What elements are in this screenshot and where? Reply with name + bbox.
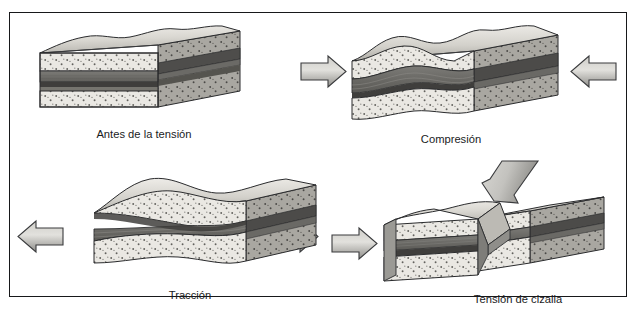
tension-arrow-left: [18, 221, 63, 252]
stress-types-figure: Antes de la tensión: [0, 0, 639, 310]
caption-before-stress: Antes de la tensión: [96, 128, 191, 140]
shear-arrow-left: [332, 228, 377, 259]
shear-arrow-diagonal: [482, 161, 538, 203]
caption-shear-stress: Tensión de cizalla: [474, 293, 563, 305]
compression-arrow-right: [571, 56, 616, 87]
panel-tension: Tracción: [18, 178, 318, 301]
diagram-canvas: Antes de la tensión: [10, 13, 624, 294]
panel-before-stress: Antes de la tensión: [40, 26, 240, 140]
compression-arrow-left: [301, 56, 346, 87]
block-before-stress: [40, 26, 240, 107]
figure-border: Antes de la tensión: [9, 12, 627, 297]
panel-shear-stress: Tensión de cizalla: [332, 161, 604, 305]
block-tension: [94, 178, 316, 263]
caption-tension: Tracción: [169, 289, 211, 301]
panel-compression: Compresión: [301, 26, 616, 145]
block-shear-stress: [382, 197, 604, 283]
caption-compression: Compresión: [421, 133, 481, 145]
block-compression: [352, 26, 558, 120]
